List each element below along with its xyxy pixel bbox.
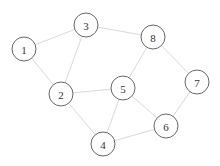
node-label: 5 [120,83,126,95]
node-label: 1 [21,44,27,56]
node-6: 6 [154,114,178,138]
node-label: 8 [150,32,156,44]
node-1: 1 [12,37,36,61]
node-3: 3 [74,13,98,37]
node-4: 4 [91,132,115,156]
node-8: 8 [141,25,165,49]
node-label: 6 [163,121,169,133]
nodes-layer: 12345678 [12,13,209,156]
node-label: 7 [194,77,200,89]
node-label: 2 [58,89,64,101]
node-5: 5 [111,76,135,100]
node-2: 2 [49,82,73,106]
graph-diagram: 12345678 [0,0,220,166]
node-label: 4 [100,139,106,151]
node-7: 7 [185,70,209,94]
node-label: 3 [83,20,89,32]
